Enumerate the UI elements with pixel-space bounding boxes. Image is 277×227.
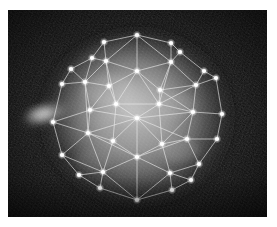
mesh-node — [135, 69, 139, 73]
mesh-sphere-graphic — [8, 10, 267, 217]
mesh-node — [191, 110, 195, 114]
bottom-falloff — [8, 178, 267, 217]
mesh-node — [107, 84, 111, 88]
mesh-node — [135, 33, 139, 37]
mesh-node — [114, 102, 118, 106]
mesh-node — [69, 67, 73, 71]
mesh-node — [60, 82, 64, 86]
image-canvas — [0, 0, 277, 227]
mesh-node — [197, 162, 201, 166]
mesh-node — [77, 173, 81, 177]
mesh-node — [86, 131, 90, 135]
mesh-node — [101, 170, 105, 174]
mesh-node — [135, 155, 139, 159]
mesh-node — [60, 153, 64, 157]
mesh-node — [51, 120, 55, 124]
mesh-node — [90, 56, 94, 60]
mesh-node — [169, 41, 173, 45]
mesh-node — [111, 139, 115, 143]
mesh-node — [158, 88, 162, 92]
mesh-node — [104, 59, 108, 63]
mesh-node — [215, 137, 219, 141]
mesh-node — [178, 50, 182, 54]
mesh-node — [202, 69, 206, 73]
mesh-node — [214, 76, 218, 80]
mesh-node — [83, 80, 87, 84]
mesh-node — [102, 40, 106, 44]
mesh-node — [168, 171, 172, 175]
mesh-node — [220, 112, 224, 116]
mesh-node — [88, 108, 92, 112]
image-plate — [8, 10, 267, 217]
mesh-node — [135, 116, 139, 120]
mesh-node — [160, 142, 164, 146]
mesh-node — [169, 60, 173, 64]
mesh-node — [194, 83, 198, 87]
mesh-node — [157, 102, 161, 106]
mesh-node — [185, 137, 189, 141]
